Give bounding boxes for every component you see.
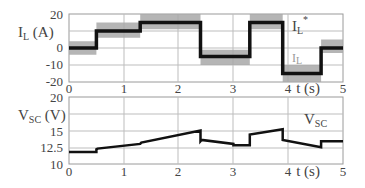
bottom-y-axis-label: VSC (V) <box>18 107 66 125</box>
ytick-0: 0 <box>57 40 64 55</box>
legend-il-reference: IL* <box>292 14 308 36</box>
svg-text:10: 10 <box>50 157 63 172</box>
svg-text:1: 1 <box>121 81 128 96</box>
bottom-grid <box>69 97 343 164</box>
svg-text:1: 1 <box>121 164 128 179</box>
top-panel: 20 0 -10 -20 IL (A) 0 1 2 3 4 5 t (s) IL… <box>18 7 346 97</box>
figure: 20 0 -10 -20 IL (A) 0 1 2 3 4 5 t (s) IL… <box>0 0 365 188</box>
svg-text:2: 2 <box>175 81 182 96</box>
bottom-y-ticks: 20 15 12.5 10 <box>40 90 63 172</box>
bottom-x-axis-label: t (s) <box>296 163 320 180</box>
legend-il-measured: IL <box>292 51 302 66</box>
svg-text:2: 2 <box>175 164 182 179</box>
svg-text:5: 5 <box>340 81 347 96</box>
svg-text:3: 3 <box>230 164 237 179</box>
svg-text:20: 20 <box>50 90 63 105</box>
ytick-neg20: -20 <box>46 74 63 89</box>
ytick-20: 20 <box>50 7 63 22</box>
svg-text:12.5: 12.5 <box>40 140 63 155</box>
bottom-panel: 20 15 12.5 10 VSC (V) 0 1 2 3 4 5 t (s) … <box>18 90 346 180</box>
top-y-ticks: 20 0 -10 -20 <box>46 7 63 89</box>
svg-text:0: 0 <box>66 164 73 179</box>
svg-text:4: 4 <box>285 81 292 96</box>
svg-text:5: 5 <box>340 164 347 179</box>
svg-text:3: 3 <box>230 81 237 96</box>
ytick-neg10: -10 <box>46 57 63 72</box>
svg-text:0: 0 <box>66 81 73 96</box>
top-y-axis-label: IL (A) <box>18 24 54 42</box>
top-x-axis-label: t (s) <box>296 80 320 97</box>
svg-text:15: 15 <box>50 124 63 139</box>
svg-text:4: 4 <box>285 164 292 179</box>
